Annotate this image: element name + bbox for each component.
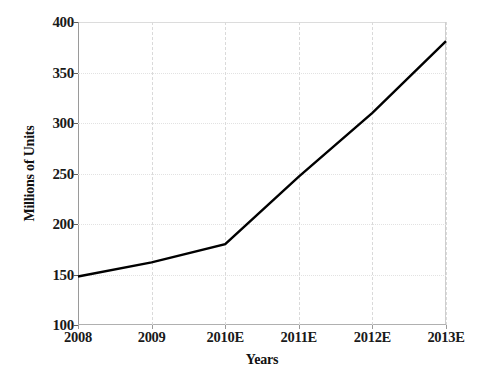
line-chart: Millions of Units 100150200250300350400 … xyxy=(0,0,492,379)
x-tick-label: 2011E xyxy=(281,329,317,346)
y-tick-label: 400 xyxy=(52,14,74,31)
x-tick-label: 2013E xyxy=(427,329,464,346)
x-tick-label: 2010E xyxy=(207,329,244,346)
plot-area xyxy=(78,22,446,325)
y-tick-label: 250 xyxy=(52,165,74,182)
y-tick-label: 200 xyxy=(52,216,74,233)
y-tick-label: 150 xyxy=(52,266,74,283)
x-axis-title: Years xyxy=(78,352,446,368)
x-axis-tick-labels: 200820092010E2011E2012E2013E xyxy=(78,329,446,349)
y-tick-label: 350 xyxy=(52,64,74,81)
y-tick-label: 300 xyxy=(52,115,74,132)
y-axis-tick-labels: 100150200250300350400 xyxy=(30,22,74,325)
data-series-line xyxy=(78,22,446,325)
x-tick-label: 2012E xyxy=(354,329,391,346)
gridline-vertical xyxy=(446,22,447,325)
x-tick-label: 2009 xyxy=(138,329,166,346)
x-tick-label: 2008 xyxy=(64,329,92,346)
